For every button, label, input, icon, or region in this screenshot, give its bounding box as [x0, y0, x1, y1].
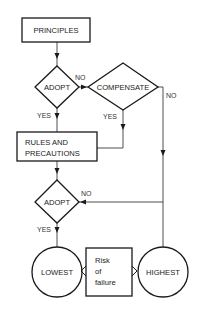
edge-label-adopt1-yes: YES	[37, 112, 51, 119]
arrow-down-icon	[55, 113, 60, 119]
node-risk-label-line1: Risk	[95, 256, 110, 265]
node-adopt-2-label: ADOPT	[44, 198, 71, 207]
node-highest-label: HIGHEST	[146, 268, 180, 277]
arrow-down-icon	[161, 150, 166, 156]
chevron-right-icon	[132, 266, 137, 276]
node-rules-label-line2: PRECAUTIONS	[25, 149, 80, 158]
arrow-down-icon	[55, 168, 60, 174]
node-risk-label-line3: failure	[95, 278, 116, 287]
edge-label-compensate-yes: YES	[103, 113, 117, 120]
arrow-down-icon	[121, 124, 126, 130]
node-compensate-label: COMPENSATE	[97, 83, 150, 92]
arrow-left-icon	[80, 200, 86, 205]
arrow-right-icon	[81, 85, 87, 90]
edge-label-adopt1-no: NO	[75, 74, 86, 81]
arrow-down-icon	[55, 53, 60, 59]
node-rules-label-line1: RULES AND	[25, 138, 69, 147]
node-adopt-1-label: ADOPT	[44, 83, 71, 92]
node-lowest-label: LOWEST	[41, 268, 73, 277]
flowchart-diagram: PRINCIPLES ADOPT NO YES COMPENSATE NO YE…	[0, 0, 199, 318]
edge-label-adopt2-yes: YES	[37, 226, 51, 233]
edge-label-adopt2-no: NO	[81, 190, 92, 197]
edge-label-compensate-no: NO	[166, 92, 177, 99]
edge-compensate-no	[158, 87, 163, 247]
node-principles-label: PRINCIPLES	[33, 26, 78, 35]
arrow-down-icon	[55, 227, 60, 233]
node-risk-label-line2: of	[95, 267, 102, 276]
